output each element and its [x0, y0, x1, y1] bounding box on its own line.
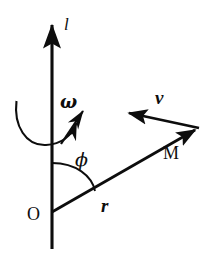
axis-label-l: l: [64, 16, 69, 33]
point-label-m: M: [163, 144, 179, 162]
figure-canvas: l ω v ϕ r M O: [0, 0, 217, 257]
velocity-label-v: v: [155, 88, 163, 107]
velocity-vector-line: [129, 113, 199, 128]
origin-label-o: O: [27, 205, 40, 223]
angular-velocity-vector-line: [61, 111, 83, 144]
angle-arc-path: [52, 163, 95, 191]
angular-velocity-label-omega: ω: [60, 93, 77, 111]
radius-label-r: r: [101, 196, 108, 215]
angle-label-phi: ϕ: [75, 150, 88, 169]
